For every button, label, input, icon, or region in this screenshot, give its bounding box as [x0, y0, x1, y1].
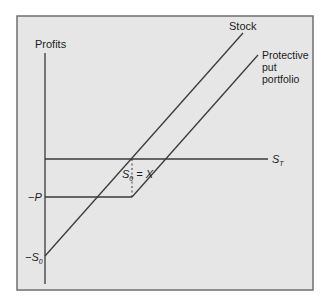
- stock-label: Stock: [229, 20, 257, 32]
- protective-put-label-line2: put: [262, 61, 277, 73]
- strike-annotation: S0 = X: [122, 168, 154, 182]
- protective-put-label-line3: portfolio: [262, 73, 300, 85]
- protective-put-label-line1: Protective: [262, 49, 309, 61]
- y-axis-label: Profits: [35, 38, 67, 50]
- protective-put-chart: Profits ST −P −S0 S0 = X Stock Protectiv…: [0, 0, 330, 308]
- neg-p-tick-label: −P: [28, 191, 42, 203]
